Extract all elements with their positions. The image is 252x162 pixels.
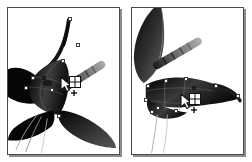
- anchor-point[interactable]: [31, 76, 35, 80]
- anchor-point[interactable]: [76, 43, 80, 47]
- anchor-point-selected[interactable]: [192, 86, 196, 90]
- anchor-point[interactable]: [174, 109, 178, 113]
- artwork-right: [132, 8, 243, 154]
- panel-right[interactable]: [131, 7, 244, 155]
- anchor-point[interactable]: [184, 77, 188, 81]
- upper-wing-right-panel: [134, 8, 164, 83]
- anchor-point[interactable]: [50, 88, 54, 92]
- lower-wing-right-left-panel: [58, 111, 116, 148]
- anchor-point[interactable]: [150, 110, 154, 114]
- anchor-point[interactable]: [68, 17, 72, 21]
- anchor-point[interactable]: [61, 59, 65, 63]
- anchor-point-selected[interactable]: [42, 76, 46, 80]
- insect-body-right: [146, 78, 238, 108]
- anchor-point[interactable]: [214, 84, 218, 88]
- anchor-point[interactable]: [236, 94, 240, 98]
- anchor-point[interactable]: [144, 98, 148, 102]
- leg-1-right: [152, 115, 158, 153]
- anchor-point[interactable]: [146, 84, 150, 88]
- anchor-point[interactable]: [164, 79, 168, 83]
- figure-stage: [0, 0, 252, 162]
- lower-wing-left-left-panel: [8, 111, 54, 141]
- artwork-left: [8, 8, 119, 154]
- panel-left[interactable]: [7, 7, 120, 155]
- anchor-point[interactable]: [24, 86, 28, 90]
- anchor-point[interactable]: [156, 106, 160, 110]
- leg-2-right: [163, 115, 167, 153]
- anchor-point-selected[interactable]: [47, 82, 51, 86]
- anchor-point[interactable]: [57, 114, 61, 118]
